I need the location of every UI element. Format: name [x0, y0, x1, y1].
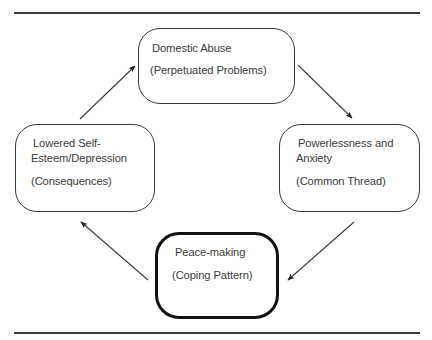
arrow-domestic-abuse-to-powerlessness: [298, 65, 352, 118]
node-lowered-self-esteem-title-line-2: Esteem/Depression: [31, 152, 127, 165]
node-lowered-self-esteem-title-line-1: Lowered Self-: [33, 137, 101, 150]
arrow-peace-making-to-lowered-self-esteem: [81, 222, 148, 280]
node-powerlessness-anxiety-title-line-1: Powerlessness and: [298, 137, 393, 150]
top-rule: [14, 12, 420, 14]
node-powerlessness-anxiety-title-line-2: Anxiety: [296, 152, 332, 165]
arrow-powerlessness-to-peace-making: [288, 222, 354, 280]
node-domestic-abuse-subtitle: (Perpetuated Problems): [150, 64, 267, 77]
node-lowered-self-esteem-subtitle: (Consequences): [31, 175, 112, 188]
node-powerlessness-anxiety-subtitle: (Common Thread): [296, 175, 386, 188]
node-peace-making-subtitle: (Coping Pattern): [172, 269, 252, 282]
arrow-lowered-self-esteem-to-domestic-abuse: [80, 66, 135, 119]
node-domestic-abuse-title: Domestic Abuse: [152, 42, 231, 55]
bottom-rule: [14, 332, 420, 334]
node-peace-making-title: Peace-making: [175, 246, 245, 259]
